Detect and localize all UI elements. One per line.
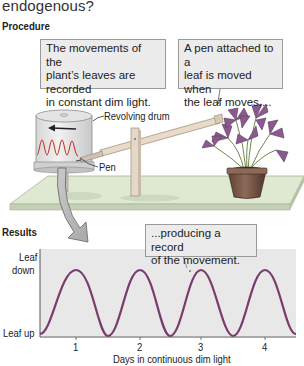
callout-recording-line-3: in constant dim light. bbox=[46, 96, 160, 110]
pen-label: Pen bbox=[99, 161, 116, 173]
callout-pen-line-1: A pen attached to a bbox=[184, 42, 277, 69]
x-tick-4: 4 bbox=[262, 341, 267, 353]
fulcrum-stand bbox=[131, 128, 141, 196]
drum-label: Revolving drum bbox=[104, 110, 170, 122]
callout-record-line-1: ...producing a record bbox=[151, 227, 251, 254]
callout-recording-line-1: The movements of the bbox=[46, 42, 160, 69]
callout-pen: A pen attached to a leaf is moved when t… bbox=[178, 39, 283, 89]
x-tick-1: 1 bbox=[73, 341, 78, 353]
x-tick-2: 2 bbox=[137, 341, 142, 353]
callout-record: ...producing a record of the movement. bbox=[145, 224, 257, 257]
y-label-down: down bbox=[12, 264, 35, 276]
y-label-leaf-up: Leaf up bbox=[3, 327, 35, 339]
drum-label-leader bbox=[93, 116, 104, 121]
callout-recording: The movements of the plant’s leaves are … bbox=[40, 39, 166, 89]
y-label-leaf: Leaf bbox=[19, 251, 37, 263]
x-tick-3: 3 bbox=[198, 341, 203, 353]
callout-recording-line-2: plant’s leaves are recorded bbox=[46, 69, 160, 96]
x-axis-label: Days in continuous dim light bbox=[113, 353, 231, 365]
callout-pen-line-2: leaf is moved when bbox=[184, 69, 277, 96]
revolving-drum bbox=[34, 110, 94, 173]
callout-record-line-2: of the movement. bbox=[151, 254, 251, 268]
callout-pen-line-3: the leaf moves,... bbox=[184, 96, 277, 110]
results-heading: Results bbox=[2, 226, 37, 238]
